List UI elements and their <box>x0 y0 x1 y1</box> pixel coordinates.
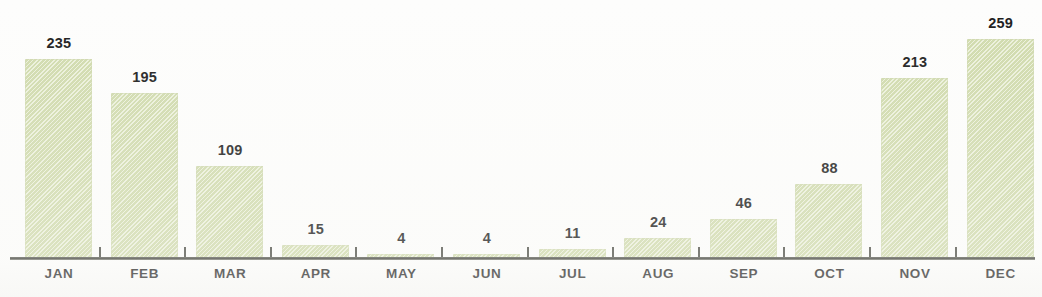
bar-group-feb <box>102 0 188 258</box>
x-axis-label-jan: JAN <box>16 266 102 281</box>
bar-dec[interactable] <box>967 39 1034 258</box>
bar-nov[interactable] <box>881 78 948 258</box>
bar-group-sep <box>701 0 787 258</box>
bar-feb[interactable] <box>111 93 178 258</box>
x-axis-label-aug: AUG <box>615 266 701 281</box>
bar-value-label-oct: 88 <box>786 160 872 176</box>
x-axis-label-sep: SEP <box>701 266 787 281</box>
x-axis-label-jul: JUL <box>530 266 616 281</box>
bar-value-label-mar: 109 <box>187 142 273 158</box>
bar-group-jul <box>530 0 616 258</box>
bar-sep[interactable] <box>710 219 777 258</box>
bar-value-label-aug: 24 <box>615 214 701 230</box>
x-axis-label-feb: FEB <box>102 266 188 281</box>
x-axis-label-may: MAY <box>358 266 444 281</box>
x-axis-label-oct: OCT <box>786 266 872 281</box>
bar-value-label-may: 4 <box>358 230 444 246</box>
bar-group-nov <box>872 0 958 258</box>
bar-value-label-jul: 11 <box>530 225 616 241</box>
bar-aug[interactable] <box>624 238 691 258</box>
bar-jan[interactable] <box>25 59 92 258</box>
bar-group-apr <box>273 0 359 258</box>
bar-group-mar <box>187 0 273 258</box>
x-axis-label-jun: JUN <box>444 266 530 281</box>
bar-group-oct <box>786 0 872 258</box>
bar-value-label-jun: 4 <box>444 230 530 246</box>
bar-value-label-dec: 259 <box>958 15 1042 31</box>
bar-value-label-apr: 15 <box>273 221 359 237</box>
x-axis-line <box>10 257 1035 260</box>
bar-value-label-nov: 213 <box>872 54 958 70</box>
bar-group-jun <box>444 0 530 258</box>
x-axis-label-mar: MAR <box>187 266 273 281</box>
x-axis-label-dec: DEC <box>958 266 1042 281</box>
bar-value-label-feb: 195 <box>102 69 188 85</box>
bar-oct[interactable] <box>795 184 862 258</box>
x-axis-label-apr: APR <box>273 266 359 281</box>
bar-group-dec <box>958 0 1042 258</box>
x-axis-label-nov: NOV <box>872 266 958 281</box>
plot-area: 235JAN195FEB109MAR15APR4MAY4JUN11JUL24AU… <box>0 0 1042 297</box>
bar-group-may <box>358 0 444 258</box>
bar-value-label-jan: 235 <box>16 35 102 51</box>
bar-value-label-sep: 46 <box>701 195 787 211</box>
bar-mar[interactable] <box>196 166 263 258</box>
bar-chart: 235JAN195FEB109MAR15APR4MAY4JUN11JUL24AU… <box>0 0 1042 297</box>
